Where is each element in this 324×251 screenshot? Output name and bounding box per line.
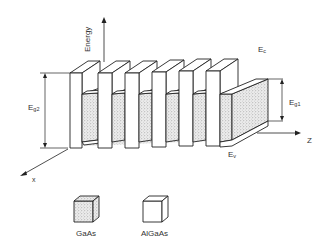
x-axis xyxy=(20,149,68,176)
conduction-band-label: Ec xyxy=(258,46,266,55)
energy-axis xyxy=(102,17,107,62)
valence-band-label: Ev xyxy=(228,151,236,160)
legend-algaas-label: AlGaAs xyxy=(141,230,168,238)
x-axis-label: x xyxy=(32,176,36,183)
legend-algaas-cube xyxy=(143,196,168,222)
energy-axis-label: Energy xyxy=(84,27,92,52)
legend-gaas-label: GaAs xyxy=(76,230,96,238)
eg2-dimension xyxy=(40,73,70,148)
legend-gaas-cube xyxy=(74,196,99,222)
superlattice-structure xyxy=(70,59,268,148)
eg2-label: Eg2 xyxy=(28,104,39,113)
superlattice-diagram xyxy=(0,0,324,251)
eg1-dimension xyxy=(268,79,284,121)
z-axis-label: Z xyxy=(307,137,312,145)
eg1-label: Eg1 xyxy=(289,99,300,108)
z-axis xyxy=(257,131,301,136)
